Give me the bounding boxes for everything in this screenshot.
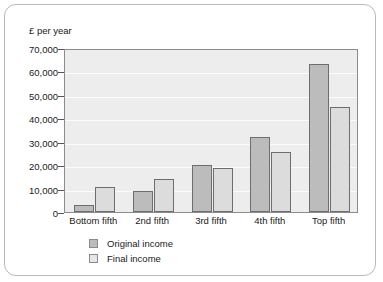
bar-original-income [192,165,212,212]
y-axis-tick-label: 50,000 [29,90,58,101]
bar-final-income [95,187,115,212]
x-axis-tick-label: Bottom fifth [69,215,117,226]
chart-legend: Original incomeFinal income [89,236,173,266]
bar-original-income [309,64,329,212]
y-axis-tick-label: 60,000 [29,67,58,78]
y-axis-tick-label: 70,000 [29,44,58,55]
legend-item-label: Original income [107,238,173,249]
legend-item: Original income [89,236,173,251]
x-axis-tick-label: Top fifth [312,215,345,226]
legend-swatch-icon [89,254,98,263]
y-axis-tick-label: 20,000 [29,161,58,172]
bar-original-income [74,205,94,212]
bar-final-income [330,107,350,212]
y-axis-tick-label: 10,000 [29,184,58,195]
y-axis-tick-label: 30,000 [29,137,58,148]
x-axis-tick-label: 4th fifth [254,215,285,226]
bar-original-income [133,191,153,212]
chart-figure: £ per year 010,00020,00030,00040,00050,0… [4,4,376,276]
bars-layer [65,50,357,212]
plot-area [64,49,358,213]
bar-final-income [271,152,291,212]
legend-item: Final income [89,251,173,266]
bar-final-income [154,179,174,212]
bar-final-income [213,168,233,213]
x-axis-tick-label: 2nd fifth [135,215,169,226]
y-axis-labels: 010,00020,00030,00040,00050,00060,00070,… [13,49,58,213]
bar-original-income [250,137,270,212]
y-axis-tick-mark [58,213,64,214]
x-axis-labels: Bottom fifth2nd fifth3rd fifth4th fifthT… [64,215,358,231]
x-axis-tick-label: 3rd fifth [195,215,227,226]
legend-item-label: Final income [107,253,161,264]
legend-swatch-icon [89,239,98,248]
y-axis-tick-label: 40,000 [29,114,58,125]
y-axis-title: £ per year [29,25,72,36]
